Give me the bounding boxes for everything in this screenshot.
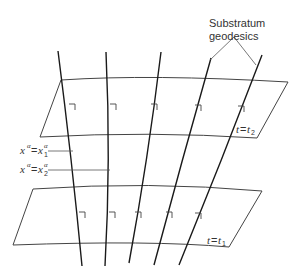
svg-text:1: 1 [44, 151, 48, 158]
substratum-geodesics [58, 51, 262, 266]
geodesic-4 [154, 58, 211, 265]
coordinate-label-2: x α = x α 2 [19, 161, 48, 177]
svg-text:2: 2 [251, 129, 255, 136]
svg-text:1: 1 [222, 240, 226, 247]
geodesic-1 [58, 51, 82, 266]
annotation-label-line2: geodesics [209, 30, 259, 42]
coordinate-label-1: x α = x α 1 [19, 142, 48, 158]
svg-text:x: x [37, 163, 43, 175]
svg-text:x: x [19, 163, 25, 175]
annotation-label-line1: Substratum [209, 17, 265, 29]
svg-text:=: = [211, 234, 217, 246]
svg-text:α: α [44, 142, 48, 150]
svg-text:=: = [240, 123, 246, 135]
svg-text:=: = [31, 163, 37, 175]
right-angle-markers-lower [79, 212, 201, 219]
plane-label-upper: t = t 2 [236, 123, 255, 136]
svg-text:x: x [19, 144, 25, 156]
svg-text:α: α [44, 161, 48, 169]
right-angle-markers-upper [69, 104, 244, 112]
plane-label-lower: t = t 1 [207, 234, 226, 247]
svg-text:2: 2 [44, 170, 48, 177]
geodesic-3 [129, 52, 161, 263]
svg-text:=: = [31, 144, 37, 156]
spacetime-diagram: Substratum geodesics t = t 2 t = t 1 x α… [0, 0, 303, 274]
geodesic-2 [105, 52, 108, 266]
svg-text:x: x [37, 144, 43, 156]
